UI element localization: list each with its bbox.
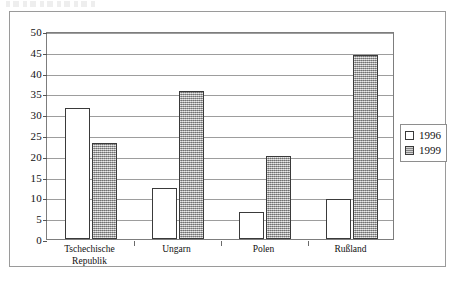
y-axis-tick-label: 30 xyxy=(12,110,42,121)
x-axis-category-label: Polen xyxy=(220,243,307,255)
x-axis-category-label: TschechischeRepublik xyxy=(46,243,133,267)
bar-chart: 05101520253035404550 TschechischeRepubli… xyxy=(10,12,447,268)
x-axis: TschechischeRepublikUngarnPolenRußland xyxy=(46,243,394,273)
y-axis-tick xyxy=(43,116,47,117)
x-axis-category-label-line: Tschechische xyxy=(64,244,115,254)
x-axis-category-label-line: Rußland xyxy=(334,244,366,254)
bar-1999-4 xyxy=(353,55,378,239)
y-axis-tick-label: 20 xyxy=(12,152,42,163)
plot-area xyxy=(46,32,394,240)
figure-frame: 05101520253035404550 TschechischeRepubli… xyxy=(9,11,446,267)
y-axis: 05101520253035404550 xyxy=(10,32,42,240)
legend-item-1999: 1999 xyxy=(405,143,441,158)
y-axis-tick-label: 35 xyxy=(12,89,42,100)
gridline xyxy=(47,54,393,55)
bar-1999-2 xyxy=(179,91,204,239)
bar-1996-3 xyxy=(239,212,264,239)
x-axis-category-label-line: Ungarn xyxy=(162,244,191,254)
y-axis-tick-label: 50 xyxy=(12,27,42,38)
chart-legend: 19961999 xyxy=(400,124,447,162)
gray-square-icon xyxy=(405,146,414,155)
y-axis-tick-label: 25 xyxy=(12,131,42,142)
y-axis-tick xyxy=(43,220,47,221)
y-axis-tick-label: 5 xyxy=(12,214,42,225)
y-axis-tick-label: 40 xyxy=(12,69,42,80)
legend-item-label: 1996 xyxy=(419,130,441,141)
y-axis-tick xyxy=(43,33,47,34)
bar-1999-1 xyxy=(92,143,117,239)
y-axis-tick xyxy=(43,137,47,138)
x-axis-category-label-line: Republik xyxy=(46,255,133,267)
gridline xyxy=(47,33,393,34)
white-square-icon xyxy=(405,131,414,140)
y-axis-tick xyxy=(43,158,47,159)
x-axis-category-label: Ungarn xyxy=(133,243,220,255)
x-axis-category-label-line: Polen xyxy=(253,244,275,254)
y-axis-tick-label: 10 xyxy=(12,193,42,204)
gridline xyxy=(47,116,393,117)
y-axis-tick-label: 45 xyxy=(12,48,42,59)
legend-item-1996: 1996 xyxy=(405,128,441,143)
y-axis-tick xyxy=(43,179,47,180)
y-axis-tick xyxy=(43,241,47,242)
gridline xyxy=(47,75,393,76)
y-axis-tick xyxy=(43,95,47,96)
legend-item-label: 1999 xyxy=(419,145,441,156)
y-axis-tick xyxy=(43,54,47,55)
y-axis-tick xyxy=(43,199,47,200)
bar-1996-1 xyxy=(65,108,90,239)
y-axis-tick xyxy=(43,75,47,76)
y-axis-tick-label: 0 xyxy=(12,235,42,246)
scan-artifact xyxy=(6,1,96,7)
gridline xyxy=(47,137,393,138)
x-axis-category-label: Rußland xyxy=(307,243,394,255)
bar-1996-2 xyxy=(152,188,177,239)
bar-1996-4 xyxy=(326,199,351,239)
y-axis-tick-label: 15 xyxy=(12,173,42,184)
bar-1999-3 xyxy=(266,156,291,239)
gridline xyxy=(47,95,393,96)
